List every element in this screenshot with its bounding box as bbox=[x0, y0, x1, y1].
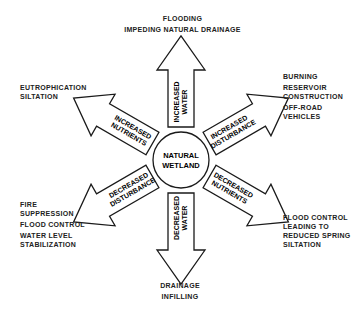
outcome-upper-right: BURNING RESERVOIR CONSTRUCTION OFF-ROAD … bbox=[283, 72, 343, 121]
diagram-canvas: INCREASED WATER INCREASED NUTRIENTS INCR… bbox=[0, 0, 361, 312]
svg-text:NATURAL: NATURAL bbox=[163, 151, 199, 160]
arrow-label-line2: WATER bbox=[181, 90, 188, 115]
outcome-bottom: DRAINAGE INFILLING bbox=[140, 281, 220, 301]
arrow-label-line1: INCREASED bbox=[173, 81, 180, 122]
svg-text:WATER: WATER bbox=[181, 206, 188, 231]
outcome-lower-right: FLOOD CONTROL LEADING TO REDUCED SPRING … bbox=[283, 213, 351, 249]
outcome-top: FLOODING IMPEDING NATURAL DRAINAGE bbox=[120, 14, 245, 34]
arrow-decreased-water: DECREASED WATER bbox=[157, 193, 205, 284]
natural-wetland-circle: NATURAL WETLAND bbox=[153, 132, 209, 188]
outcome-upper-left: EUTROPHICATION SILTATION bbox=[20, 83, 87, 101]
arrow-increased-water: INCREASED WATER bbox=[157, 36, 205, 127]
svg-text:DECREASED: DECREASED bbox=[173, 196, 180, 240]
svg-text:WETLAND: WETLAND bbox=[162, 161, 200, 170]
outcome-lower-left: FIRE SUPPRESSION FLOOD CONTROL WATER LEV… bbox=[20, 200, 85, 249]
